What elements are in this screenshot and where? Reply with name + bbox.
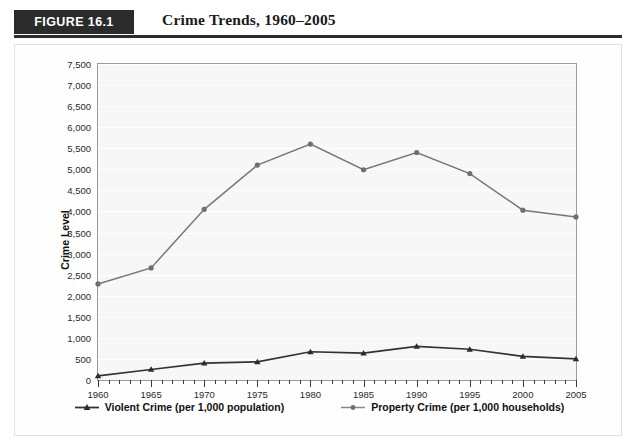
data-point-marker — [308, 141, 313, 146]
x-axis-tick-label: 1975 — [247, 389, 268, 400]
y-axis-tick-label: 1,500 — [67, 311, 91, 322]
x-axis-minor-tick — [374, 380, 375, 384]
data-point-marker — [520, 208, 525, 213]
x-axis-minor-tick — [353, 380, 354, 384]
plot-area: 05001,0001,5002,0002,5003,0003,5004,0004… — [97, 63, 577, 381]
x-axis-tick-label: 1990 — [406, 389, 427, 400]
y-axis-tick-label: 1,000 — [67, 332, 91, 343]
x-axis-minor-tick — [109, 380, 110, 384]
data-point-marker — [255, 163, 260, 168]
legend-label-property-crime: Property Crime (per 1,000 households) — [371, 401, 564, 413]
x-axis-major-tick — [364, 380, 365, 387]
chart-legend: Violent Crime (per 1,000 population) Pro… — [15, 401, 623, 413]
x-axis-tick-label: 1995 — [459, 389, 480, 400]
violent-crime-legend-symbol — [74, 402, 100, 413]
y-axis-tick-label: 2,000 — [67, 290, 91, 301]
y-axis-tick-label: 500 — [75, 353, 91, 364]
x-axis-tick-label: 1985 — [353, 389, 374, 400]
x-axis-minor-tick — [555, 380, 556, 384]
x-axis-minor-tick — [406, 380, 407, 384]
figure-number-badge: FIGURE 16.1 — [14, 10, 134, 34]
y-axis-tick-label: 7,500 — [67, 59, 91, 70]
x-axis-tick-label: 1980 — [300, 389, 321, 400]
y-axis-tick-label: 4,500 — [67, 185, 91, 196]
y-axis-tick-label: 3,000 — [67, 248, 91, 259]
series-line — [98, 144, 576, 284]
x-axis-minor-tick — [300, 380, 301, 384]
x-axis-minor-tick — [395, 380, 396, 384]
x-axis-tick-label: 2000 — [512, 389, 533, 400]
x-axis-major-tick — [257, 380, 258, 387]
x-axis-major-tick — [576, 380, 577, 387]
x-axis-minor-tick — [534, 380, 535, 384]
x-axis-minor-tick — [172, 380, 173, 384]
data-point-marker — [573, 214, 578, 219]
x-axis-minor-tick — [162, 380, 163, 384]
series-layer — [98, 64, 576, 380]
data-point-marker — [361, 167, 366, 172]
y-axis-tick-label: 0 — [86, 375, 91, 386]
series-line — [98, 346, 576, 376]
x-axis-major-tick — [523, 380, 524, 387]
x-axis-minor-tick — [332, 380, 333, 384]
x-axis-minor-tick — [289, 380, 290, 384]
x-axis-major-tick — [470, 380, 471, 387]
header-rule — [14, 35, 622, 38]
plot-wrapper: 05001,0001,5002,0002,5003,0003,5004,0004… — [97, 63, 577, 381]
figure-header: FIGURE 16.1 Crime Trends, 1960–2005 — [14, 10, 622, 38]
x-axis-minor-tick — [438, 380, 439, 384]
legend-item-violent-crime: Violent Crime (per 1,000 population) — [74, 401, 285, 413]
y-axis-tick-label: 3,500 — [67, 227, 91, 238]
figure-page: FIGURE 16.1 Crime Trends, 1960–2005 Crim… — [0, 0, 635, 447]
x-axis-minor-tick — [459, 380, 460, 384]
figure-title: Crime Trends, 1960–2005 — [162, 11, 336, 29]
x-axis-minor-tick — [215, 380, 216, 384]
x-axis-major-tick — [98, 380, 99, 387]
y-axis-tick-label: 6,500 — [67, 101, 91, 112]
x-axis-minor-tick — [480, 380, 481, 384]
x-axis-major-tick — [310, 380, 311, 387]
x-axis-minor-tick — [491, 380, 492, 384]
y-axis-tick-label: 5,500 — [67, 143, 91, 154]
x-axis-minor-tick — [279, 380, 280, 384]
x-axis-minor-tick — [236, 380, 237, 384]
x-axis-minor-tick — [427, 380, 428, 384]
property-crime-legend-symbol — [340, 402, 366, 413]
y-axis-tick-label: 6,000 — [67, 122, 91, 133]
x-axis-minor-tick — [225, 380, 226, 384]
x-axis-minor-tick — [247, 380, 248, 384]
x-axis-minor-tick — [502, 380, 503, 384]
x-axis-minor-tick — [342, 380, 343, 384]
data-point-marker — [149, 265, 154, 270]
x-axis-major-tick — [417, 380, 418, 387]
x-axis-minor-tick — [130, 380, 131, 384]
legend-label-violent-crime: Violent Crime (per 1,000 population) — [105, 401, 285, 413]
data-point-marker — [467, 171, 472, 176]
x-axis-minor-tick — [119, 380, 120, 384]
x-axis-minor-tick — [449, 380, 450, 384]
x-axis-minor-tick — [183, 380, 184, 384]
data-point-marker — [414, 150, 419, 155]
y-axis-tick-label: 4,000 — [67, 206, 91, 217]
x-axis-tick-label: 1965 — [141, 389, 162, 400]
x-axis-tick-label: 1960 — [87, 389, 108, 400]
x-axis-minor-tick — [385, 380, 386, 384]
x-axis-tick-label: 1970 — [194, 389, 215, 400]
legend-item-property-crime: Property Crime (per 1,000 households) — [340, 401, 564, 413]
figure-number-label: FIGURE 16.1 — [34, 15, 113, 29]
y-axis-tick-label: 7,000 — [67, 80, 91, 91]
x-axis-minor-tick — [321, 380, 322, 384]
x-axis-major-tick — [151, 380, 152, 387]
x-axis-minor-tick — [194, 380, 195, 384]
y-axis-title: Crime Level — [59, 210, 71, 270]
x-axis-minor-tick — [140, 380, 141, 384]
figure-frame: Crime Level 05001,0001,5002,0002,5003,00… — [14, 44, 622, 436]
data-point-marker — [95, 281, 100, 286]
y-axis-tick-label: 2,500 — [67, 269, 91, 280]
x-axis-minor-tick — [565, 380, 566, 384]
x-axis-minor-tick — [268, 380, 269, 384]
x-axis-minor-tick — [544, 380, 545, 384]
x-axis-minor-tick — [512, 380, 513, 384]
data-point-marker — [202, 207, 207, 212]
x-axis-tick-label: 2005 — [565, 389, 586, 400]
